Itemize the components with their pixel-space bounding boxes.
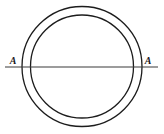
axis-label-left: A — [9, 55, 17, 66]
axis-label-right: A — [144, 55, 152, 66]
figure-canvas: A A — [0, 0, 164, 134]
concentric-circles-diagram: A A — [0, 0, 164, 134]
